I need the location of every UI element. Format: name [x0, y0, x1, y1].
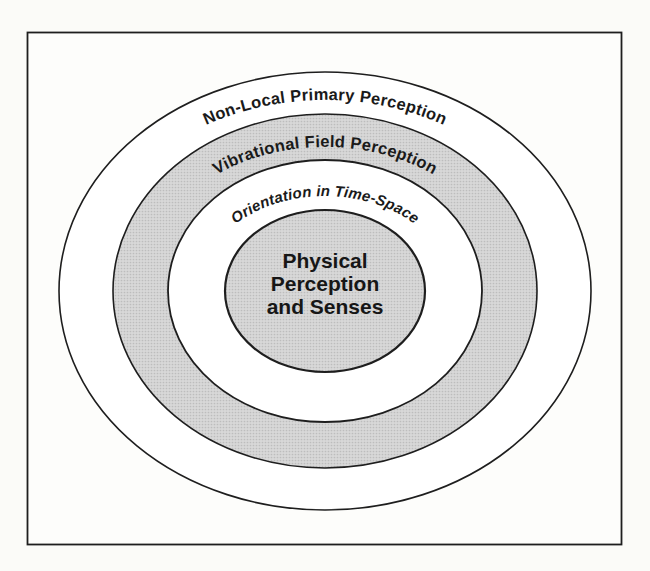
core-label-line-3: and Senses: [267, 295, 384, 318]
core-label-line-1: Physical: [282, 249, 367, 272]
scanned-page: Non-Local Primary Perception Vibrational…: [0, 0, 650, 571]
perception-levels-diagram: Non-Local Primary Perception Vibrational…: [0, 0, 650, 571]
core-label-line-2: Perception: [271, 272, 380, 295]
